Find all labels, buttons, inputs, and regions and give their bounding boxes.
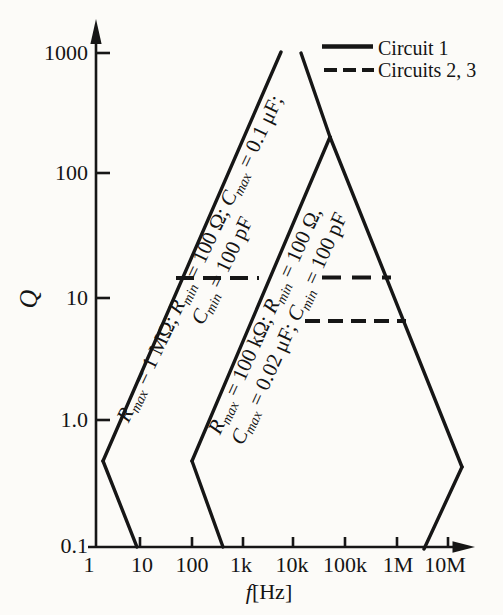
y-tick-label-100: 100 xyxy=(16,162,88,184)
y-tick-label-1.0: 1.0 xyxy=(16,409,88,431)
x-tick-label-100: 100 xyxy=(176,554,209,576)
x-tick-marks xyxy=(140,537,448,546)
x-tick-label-10k: 10k xyxy=(276,554,309,576)
y-axis-arrow-icon xyxy=(90,19,101,44)
y-tick-label-0.1: 0.1 xyxy=(16,535,88,557)
x-axis-label: f[Hz] xyxy=(246,581,292,603)
q-vs-frequency-chart: 1000 100 10 1.0 0.1 1 10 100 1k 10k 100k… xyxy=(0,0,503,615)
circuit1-lower-left-edge xyxy=(103,461,137,547)
circuits23-lower-right-edge xyxy=(424,467,462,549)
x-tick-label-1k: 1k xyxy=(230,554,252,576)
circuit1-right-edge xyxy=(301,53,330,137)
x-tick-label-100k: 100k xyxy=(323,554,367,576)
x-tick-label-1: 1 xyxy=(84,554,95,576)
circuits23-lower-left-edge xyxy=(192,461,223,547)
legend-item-circuits23: Circuits 2, 3 xyxy=(378,59,476,81)
legend-item-circuit1: Circuit 1 xyxy=(378,37,449,59)
y-tick-label-1000: 1000 xyxy=(16,42,88,64)
circuits23-right-edge xyxy=(330,137,462,467)
y-tick-marks xyxy=(96,53,110,420)
y-axis-label: Q xyxy=(16,290,42,309)
x-tick-label-1M: 1M xyxy=(383,554,414,576)
x-tick-label-10: 10 xyxy=(131,554,153,576)
x-tick-label-10M: 10M xyxy=(424,554,466,576)
